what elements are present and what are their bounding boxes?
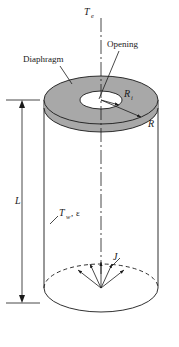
opening-label: Opening: [107, 39, 138, 49]
radiosity-symbol: J: [113, 251, 118, 262]
emission-temperature-subscript: e: [91, 12, 94, 19]
inner-radius-symbol: R: [123, 88, 130, 99]
emissivity-symbol: ε: [76, 208, 80, 218]
inner-radius-subscript: i: [131, 94, 133, 101]
length-dimension: L: [6, 100, 40, 303]
blackbody-cavity-diagram: T e Diaphragm Opening R i: [0, 0, 179, 347]
outer-radius-symbol: R: [147, 118, 154, 129]
length-arrow-down: [19, 295, 25, 303]
length-symbol: L: [14, 195, 21, 206]
emission-temperature-label: T e: [84, 6, 94, 19]
length-arrow-up: [19, 100, 25, 108]
diaphragm-label: Diaphragm: [23, 54, 64, 64]
emission-temperature-symbol: T: [84, 6, 91, 17]
diaphragm-callout: Diaphragm: [23, 54, 72, 84]
wall-temperature-comma: ,: [71, 208, 73, 218]
figure-container: T e Diaphragm Opening R i: [0, 0, 179, 347]
